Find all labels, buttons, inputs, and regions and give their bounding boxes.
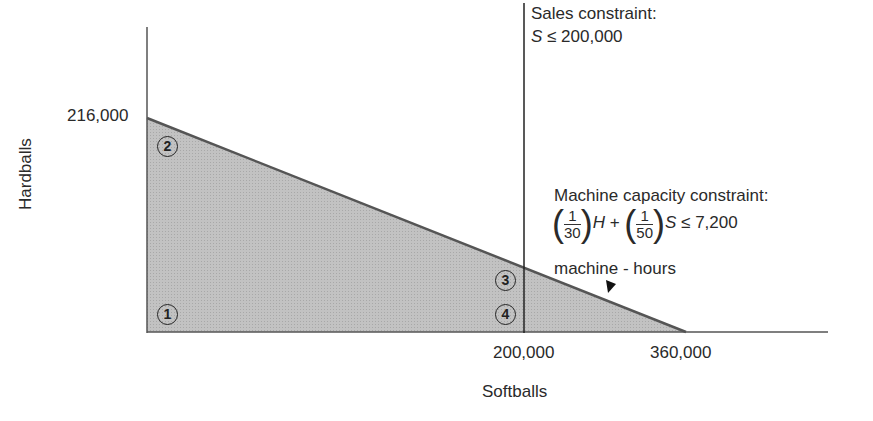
corner-point-4: 4 — [495, 304, 516, 325]
var-h: H — [593, 213, 605, 232]
machine-constraint-units: machine - hours — [554, 259, 676, 279]
fraction-1-50: 150 — [636, 208, 653, 241]
sales-relation: ≤ 200,000 — [542, 27, 622, 46]
x-axis-label: Softballs — [482, 382, 547, 402]
sales-constraint-title: Sales constraint: — [531, 4, 657, 24]
var-s: S — [531, 27, 542, 46]
y-axis-label: Hardballs — [16, 138, 36, 210]
corner-point-2: 2 — [157, 136, 178, 157]
y-tick-216000: 216,000 — [67, 106, 128, 126]
x-tick-200000: 200,000 — [493, 343, 554, 363]
machine-constraint-expression: (130)H + (150)S ≤ 7,200 — [552, 206, 738, 242]
corner-point-3: 3 — [495, 270, 516, 291]
var-s2: S — [665, 213, 676, 232]
fraction-1-30: 130 — [564, 208, 581, 241]
x-tick-360000: 360,000 — [650, 343, 711, 363]
sales-constraint-expression: S ≤ 200,000 — [531, 27, 623, 47]
arrow-pointer-icon — [606, 280, 616, 293]
chart-canvas — [0, 0, 873, 421]
corner-point-1: 1 — [157, 304, 178, 325]
